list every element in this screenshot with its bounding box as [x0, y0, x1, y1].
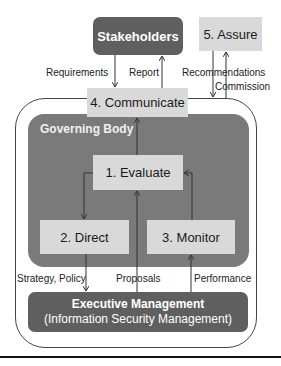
strategy-policy-label: Strategy, Policy	[17, 273, 86, 284]
evaluate-to-direct-arrow	[84, 173, 93, 219]
report-label: Report	[129, 67, 159, 78]
connector-arrows	[0, 0, 281, 366]
recommendations-label: Recommendations	[182, 67, 265, 78]
commission-label: Commission	[215, 81, 270, 92]
performance-label: Performance	[194, 273, 251, 284]
proposals-label: Proposals	[116, 273, 160, 284]
requirements-label: Requirements	[46, 67, 108, 78]
monitor-to-evaluate-arrow	[184, 173, 192, 220]
